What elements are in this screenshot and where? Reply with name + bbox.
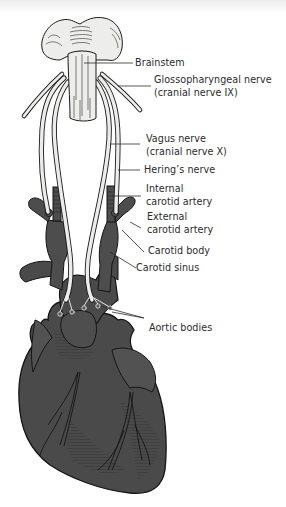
- label-carotid-sinus: Carotid sinus: [136, 262, 199, 274]
- label-glossopharyngeal-nerve-sub: (cranial nerve IX): [154, 87, 238, 99]
- label-aortic-bodies: Aortic bodies: [149, 322, 212, 334]
- label-internal-carotid-artery-sub: carotid artery: [146, 196, 212, 208]
- label-external-carotid-artery-sub: carotid artery: [147, 224, 213, 236]
- heart: [19, 256, 166, 494]
- label-internal-carotid-artery: Internal: [146, 183, 183, 195]
- label-glossopharyngeal-nerve: Glossopharyngeal nerve: [154, 74, 272, 86]
- label-external-carotid-artery: External: [147, 211, 187, 223]
- label-herings-nerve: Hering’s nerve: [144, 164, 215, 176]
- label-carotid-body: Carotid body: [148, 245, 210, 257]
- label-vagus-nerve: Vagus nerve: [146, 133, 206, 145]
- brainstem: [42, 17, 123, 121]
- label-brainstem: Brainstem: [135, 57, 185, 69]
- label-vagus-nerve-sub: (cranial nerve X): [146, 146, 227, 158]
